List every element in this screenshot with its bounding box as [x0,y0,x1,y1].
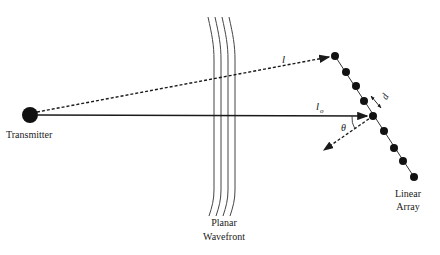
path-l-dashed [37,57,329,112]
transmitter-label: Transmitter [6,129,53,140]
array-element-reference [369,112,377,120]
array-element [360,97,368,105]
array-element [352,82,360,90]
angle-arc [352,116,355,129]
array-element [380,127,388,135]
transmitter-node [22,107,38,123]
array-geometry-diagram: Transmitter Planar Wavefront Linear Arra… [0,0,440,255]
array-element [390,144,398,152]
wavefront-label-line1: Planar [211,217,237,228]
array-label-line1: Linear [395,188,422,199]
wavefront-label-line2: Wavefront [203,231,245,242]
array-element [342,68,350,76]
path-lo-label: l [316,100,319,112]
array-element [410,173,418,181]
path-lo-subscript: o [320,107,324,115]
planar-wavefront [208,17,235,216]
path-l-label: l [282,53,285,65]
angle-theta-label: θ [341,122,346,133]
array-element [399,157,407,165]
spacing-d-label: d [379,91,392,102]
direct-path-lo [38,115,367,116]
array-element [331,52,339,60]
spacing-d-indicator [371,96,381,108]
broadside-normal-arrow [324,116,373,150]
array-label-line2: Array [396,201,419,212]
